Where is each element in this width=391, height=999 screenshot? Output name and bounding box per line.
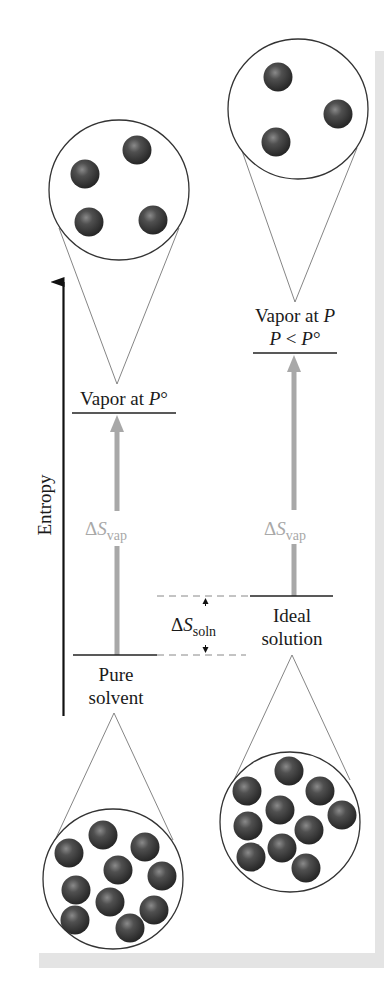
right-delta-s-vap-label: ΔSvap [264, 518, 306, 543]
vapor-pure-label: Vapor at P° [80, 388, 168, 409]
delta-s-soln-label: ΔSsoln [171, 614, 216, 639]
entropy-diagram: Entropy Vapor at P° Vapor at P P < P° ΔS… [0, 0, 391, 999]
frame-right-bar [375, 51, 384, 968]
ideal-solution-zoom [220, 655, 360, 892]
ideal-solution-label-1: Ideal [273, 605, 311, 626]
frame-bottom-bar [39, 953, 384, 968]
pure-solvent-label-2: solvent [89, 687, 145, 708]
pure-vapor-zoom [49, 120, 189, 384]
left-delta-s-vap-label: ΔSvap [85, 518, 127, 543]
solution-vapor-zoom [228, 39, 368, 302]
pure-solvent-zoom [43, 713, 183, 949]
right-delta-s-vap-arrow [287, 355, 301, 596]
vapor-solution-label-1: Vapor at P [255, 305, 336, 326]
vapor-solution-label-2: P < P° [268, 328, 320, 349]
ideal-solution-label-2: solution [261, 628, 323, 649]
entropy-axis-label: Entropy [34, 474, 55, 536]
pure-solvent-label-1: Pure [99, 664, 134, 685]
